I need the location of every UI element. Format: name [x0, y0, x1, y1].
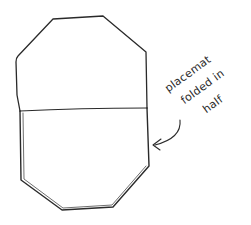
- placemat-lower-half: [20, 108, 149, 210]
- fold-line: [20, 108, 147, 111]
- arrow-icon: [153, 120, 180, 150]
- placemat-upper-half: [16, 16, 147, 111]
- diagram-canvas: [0, 0, 251, 225]
